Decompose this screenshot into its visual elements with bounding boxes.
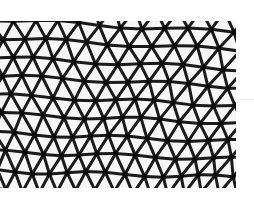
- lattice-photo: [0, 21, 236, 188]
- divider: [236, 99, 254, 100]
- lattice-graphic: [0, 21, 236, 188]
